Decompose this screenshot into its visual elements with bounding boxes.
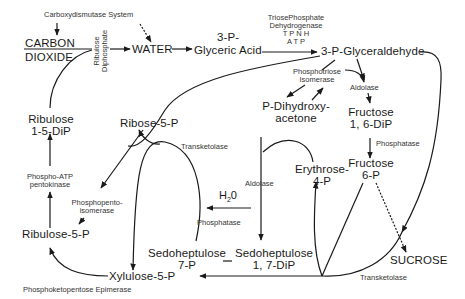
compound-dihydroxyacetone: P-Dihydroxy-acetone <box>262 100 330 124</box>
enzyme-aldolase-top: Aldolase <box>350 84 379 92</box>
f6p-label-1: Fructose <box>348 157 394 169</box>
compound-dioxide: DIOXIDE <box>25 51 73 63</box>
s7p-label-1: Sedoheptulose <box>148 247 226 259</box>
isomerase-label-2: Isomerase <box>299 75 334 84</box>
compound-ribose-5p: Ribose-5-P <box>120 117 179 129</box>
isomerase-to-ru5p-arrow <box>79 218 84 224</box>
f6p-to-sucrose-arrow <box>376 183 406 252</box>
h2o-h: H <box>219 189 227 201</box>
dhap-label-1: P-Dihydroxy- <box>262 100 330 112</box>
erythrose-label-1: Erythrose- <box>295 163 349 175</box>
kinase-label-2: pentokinase <box>30 180 70 189</box>
f6p-label-2: 6-P <box>362 169 380 181</box>
rudp-label-1: Ribulose <box>28 113 74 125</box>
enzyme-phosphopento-isomerase: Phosphopento-isomerase <box>67 199 127 215</box>
enzyme-phospho-atp-pentokinase: Phospho-ATPpentokinase <box>23 173 77 189</box>
compound-carbon: CARBON <box>25 37 75 49</box>
xylulose-to-ru5p-arrow <box>50 248 108 276</box>
compound-fructose-dip: Fructose1, 6-DiP <box>345 106 397 130</box>
enzyme-epimerase: Phosphoketopentose Epimerase <box>23 286 131 294</box>
compound-xylulose-5p: Xylulose-5-P <box>109 270 175 282</box>
erythrose-to-aldolase-curve <box>263 141 313 162</box>
enzyme-aldolase-mid: Aldolase <box>245 180 274 188</box>
dhap-label-2: acetone <box>275 112 317 124</box>
compound-sedoheptulose-dip: Sedoheptulose1, 7-DiP <box>235 247 313 271</box>
hub-to-erythrose-arrow <box>314 182 322 276</box>
rudp-label-2: 1-5-DiP <box>31 125 71 137</box>
erythrose-label-2: 4-P <box>313 175 331 187</box>
aldolase-to-fdp-arrow <box>368 93 370 103</box>
h2o-o: 0 <box>231 189 237 201</box>
compound-ribulose-5p: Ribulose-5-P <box>22 228 90 240</box>
enzyme-transketolase-mid: Transketolase <box>181 143 228 151</box>
enzyme-carboxydismutase: Carboxydismutase System <box>44 11 133 19</box>
dhap-to-isomerase-arrow <box>312 88 323 100</box>
compound-h2o: H20 <box>219 190 237 204</box>
carboxy-arrow-right <box>140 24 151 42</box>
compound-water: WATER <box>132 43 173 55</box>
enzyme-phosphotriose-isomerase: PhosphotrioseIsomerase <box>288 68 346 84</box>
fdp-label-2: 1, 6-DiP <box>350 118 392 130</box>
compound-glyceraldehyde: 3-P-Glyceraldehyde <box>321 45 424 57</box>
enzyme-phosphatase-right: Phosphatase <box>376 140 420 148</box>
f6p-to-hub-line <box>322 183 363 276</box>
s7p-label-2: 7-P <box>178 259 196 271</box>
compound-sucrose: SUCROSE <box>390 254 448 266</box>
enzyme-ribulose-diphosphate: RibuloseDiphosphate <box>93 30 110 72</box>
atp-label: A T P <box>287 37 305 46</box>
fdp-label-1: Fructose <box>348 106 394 118</box>
gald-to-aldolase-arrow <box>357 59 364 80</box>
enzyme-phosphatase-mid: Phosphatase <box>197 219 241 227</box>
sdp-label-1: Sedoheptulose <box>235 247 313 259</box>
ribose-to-isomerase-arrow <box>101 130 143 188</box>
compound-sedoheptulose-7p: Sedoheptulose7-P <box>148 247 226 271</box>
enzyme-transketolase-bottom: Transketolase <box>360 274 407 282</box>
compound-glyceric-acid: Glyceric Acid <box>194 44 262 56</box>
compound-erythrose: Erythrose-4-P <box>291 163 353 187</box>
sdp-label-2: 1, 7-DiP <box>253 259 295 271</box>
compound-3p: 3-P- <box>217 31 239 43</box>
enzyme-triose-dh: TriosePhosphateDehydrogenaseT P N HA T P <box>261 14 331 46</box>
rdp-label-2: Diphosphate <box>100 30 109 72</box>
ppi-label-2: isomerase <box>80 206 115 215</box>
compound-ribulose-dip: Ribulose1-5-DiP <box>27 113 75 137</box>
isomerase-to-dhap-arrow <box>287 85 305 97</box>
